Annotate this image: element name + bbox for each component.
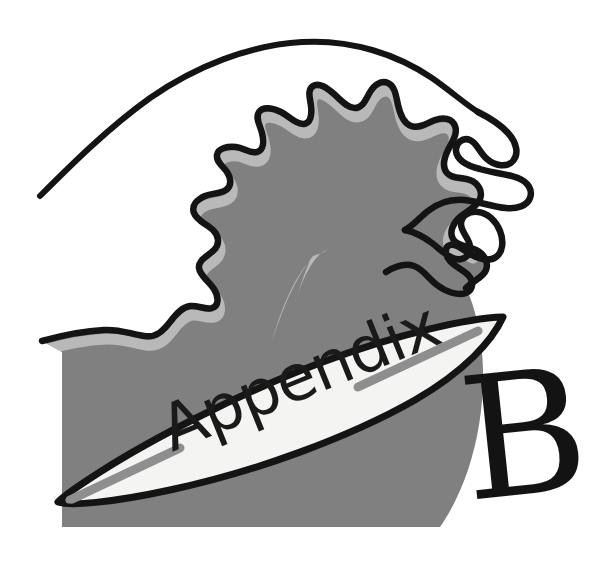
appendix-divider-illustration: Appendix B: [0, 0, 608, 563]
wave-surfboard-scene: Appendix B: [0, 0, 608, 563]
appendix-letter: B: [451, 330, 596, 540]
